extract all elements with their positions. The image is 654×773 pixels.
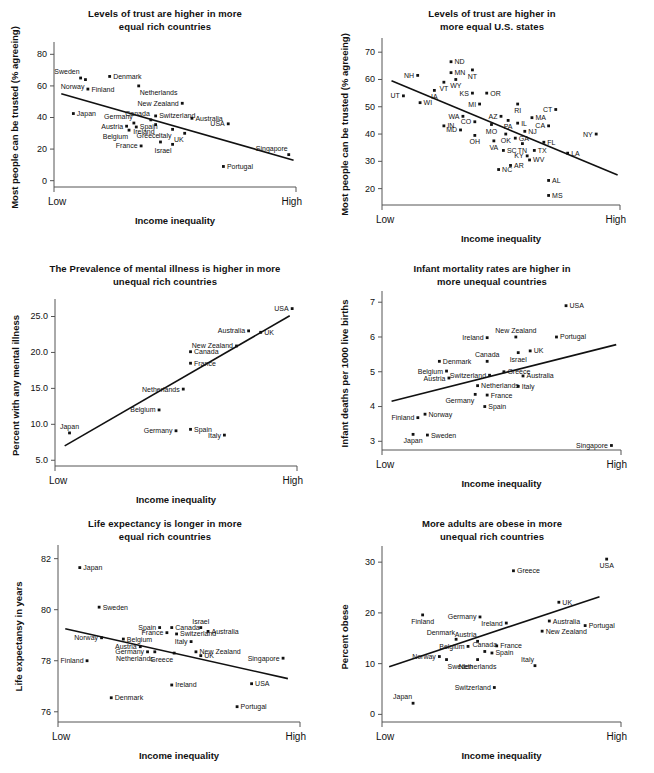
data-point[interactable] — [72, 112, 75, 115]
data-point[interactable] — [531, 116, 534, 119]
data-point[interactable] — [502, 149, 505, 152]
data-point[interactable] — [467, 645, 470, 648]
data-point[interactable] — [182, 388, 185, 391]
data-point[interactable] — [454, 78, 457, 81]
data-point[interactable] — [154, 115, 157, 118]
data-point[interactable] — [459, 129, 462, 132]
data-point[interactable] — [189, 362, 192, 365]
data-point[interactable] — [485, 92, 488, 95]
data-point[interactable] — [247, 329, 250, 332]
data-point[interactable] — [534, 664, 537, 667]
data-point[interactable] — [471, 69, 474, 72]
data-point[interactable] — [512, 569, 515, 572]
data-point[interactable] — [442, 124, 445, 127]
data-point[interactable] — [491, 652, 494, 655]
data-point[interactable] — [478, 103, 481, 106]
data-point[interactable] — [433, 89, 436, 92]
data-point[interactable] — [421, 614, 424, 617]
data-point[interactable] — [547, 124, 550, 127]
data-point[interactable] — [514, 137, 517, 140]
data-point[interactable] — [476, 384, 479, 387]
data-point[interactable] — [416, 74, 419, 77]
data-point[interactable] — [474, 393, 477, 396]
data-point[interactable] — [488, 374, 491, 377]
data-point[interactable] — [175, 633, 178, 636]
data-point[interactable] — [442, 81, 445, 84]
data-point[interactable] — [158, 409, 161, 412]
data-point[interactable] — [199, 626, 202, 629]
data-point[interactable] — [610, 444, 613, 447]
data-point[interactable] — [175, 429, 178, 432]
data-point[interactable] — [473, 134, 476, 137]
data-point[interactable] — [86, 88, 89, 91]
data-point[interactable] — [166, 631, 169, 634]
data-point[interactable] — [86, 659, 89, 662]
data-point[interactable] — [486, 394, 489, 397]
data-point[interactable] — [566, 152, 569, 155]
data-point[interactable] — [565, 304, 568, 307]
data-point[interactable] — [424, 413, 427, 416]
data-point[interactable] — [548, 620, 551, 623]
data-point[interactable] — [236, 705, 239, 708]
data-point[interactable] — [170, 684, 173, 687]
data-point[interactable] — [78, 566, 81, 569]
data-point[interactable] — [171, 143, 174, 146]
data-point[interactable] — [170, 626, 173, 629]
data-point[interactable] — [445, 658, 448, 661]
data-point[interactable] — [227, 122, 230, 125]
data-point[interactable] — [533, 149, 536, 152]
data-point[interactable] — [223, 434, 226, 437]
data-point[interactable] — [502, 370, 505, 373]
data-point[interactable] — [137, 85, 140, 88]
data-point[interactable] — [483, 405, 486, 408]
data-point[interactable] — [195, 650, 198, 653]
data-point[interactable] — [483, 650, 486, 653]
data-point[interactable] — [492, 139, 495, 142]
data-point[interactable] — [547, 179, 550, 182]
data-point[interactable] — [516, 122, 519, 125]
data-point[interactable] — [438, 655, 441, 658]
data-point[interactable] — [412, 433, 415, 436]
data-point[interactable] — [490, 123, 493, 126]
data-point[interactable] — [528, 159, 531, 162]
data-point[interactable] — [84, 78, 87, 81]
data-point[interactable] — [505, 622, 508, 625]
data-point[interactable] — [250, 682, 253, 685]
data-point[interactable] — [445, 370, 448, 373]
data-point[interactable] — [222, 165, 225, 168]
data-point[interactable] — [438, 360, 441, 363]
data-point[interactable] — [199, 654, 202, 657]
data-point[interactable] — [159, 141, 162, 144]
data-point[interactable] — [504, 133, 507, 136]
data-point[interactable] — [448, 377, 451, 380]
data-point[interactable] — [282, 657, 285, 660]
data-point[interactable] — [426, 434, 429, 437]
data-point[interactable] — [98, 606, 101, 609]
data-point[interactable] — [514, 336, 517, 339]
data-point[interactable] — [171, 128, 174, 131]
data-point[interactable] — [450, 60, 453, 63]
data-point[interactable] — [526, 154, 529, 157]
data-point[interactable] — [521, 142, 524, 145]
data-point[interactable] — [181, 102, 184, 105]
data-point[interactable] — [412, 702, 415, 705]
data-point[interactable] — [146, 650, 149, 653]
data-point[interactable] — [522, 375, 525, 378]
data-point[interactable] — [79, 77, 82, 80]
data-point[interactable] — [542, 141, 545, 144]
data-point[interactable] — [547, 194, 550, 197]
data-point[interactable] — [479, 616, 482, 619]
data-point[interactable] — [517, 351, 520, 354]
data-point[interactable] — [419, 101, 422, 104]
data-point[interactable] — [189, 428, 192, 431]
data-point[interactable] — [68, 432, 71, 435]
data-point[interactable] — [100, 636, 103, 639]
data-point[interactable] — [493, 686, 496, 689]
data-point[interactable] — [473, 120, 476, 123]
data-point[interactable] — [291, 307, 294, 310]
data-point[interactable] — [555, 336, 558, 339]
data-point[interactable] — [149, 118, 152, 121]
data-point[interactable] — [529, 349, 532, 352]
data-point[interactable] — [125, 125, 128, 128]
data-point[interactable] — [190, 640, 193, 643]
